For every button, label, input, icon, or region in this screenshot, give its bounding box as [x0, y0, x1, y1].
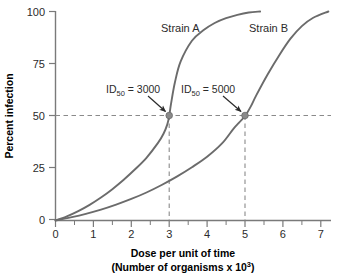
- y-tick-label-100: 100: [27, 6, 45, 18]
- x-tick-label-0: 0: [52, 228, 58, 240]
- annotation-b-subscript: 50: [192, 89, 200, 98]
- y-tick-label-50: 50: [33, 110, 45, 122]
- annotation-b-prefix: ID: [181, 83, 192, 95]
- curve-label-strain-a: Strain A: [161, 22, 200, 34]
- y-tick-label-25: 25: [33, 162, 45, 174]
- x-axis-title-line2-close: ): [251, 261, 255, 273]
- infection-dose-response-chart: 100 75 50 25 0 0 1 2: [0, 0, 338, 279]
- x-axis-title-line2: (Number of organisms x 103): [111, 260, 254, 273]
- x-tick-label-3: 3: [166, 228, 172, 240]
- x-tick-label-1: 1: [90, 228, 96, 240]
- x-tick-label-6: 6: [280, 228, 286, 240]
- annotation-a-prefix: ID: [106, 83, 117, 95]
- curve-label-strain-b: Strain B: [249, 22, 288, 34]
- x-tick-label-4: 4: [204, 228, 210, 240]
- annotation-b-suffix: = 5000: [200, 83, 235, 95]
- annotation-a-suffix: = 3000: [125, 83, 160, 95]
- x-tick-label-5: 5: [242, 228, 248, 240]
- chart-figure: 100 75 50 25 0 0 1 2: [0, 0, 338, 279]
- x-tick-label-2: 2: [128, 228, 134, 240]
- annotation-a-subscript: 50: [117, 89, 125, 98]
- y-axis-title: Percent infection: [3, 73, 15, 158]
- marker-strain-a-id50: [166, 112, 173, 119]
- x-tick-label-7: 7: [318, 228, 324, 240]
- x-axis-title-line2-main: (Number of organisms x 10: [111, 261, 247, 273]
- y-tick-label-75: 75: [33, 58, 45, 70]
- marker-strain-b-id50: [242, 112, 249, 119]
- y-tick-label-0: 0: [39, 214, 45, 226]
- x-axis-title-line1: Dose per unit of time: [131, 247, 236, 259]
